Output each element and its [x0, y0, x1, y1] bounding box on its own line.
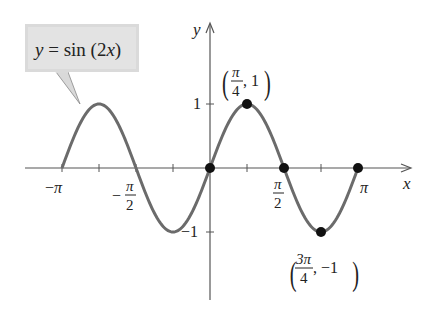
tick-label-neg-pi: −π	[45, 179, 63, 196]
point-trough	[316, 227, 326, 237]
sine-graph: x y −π − π 2 π 2 π 1 −1 ( π 4 , 1 ) ( 3π…	[0, 0, 428, 309]
svg-text:−: −	[112, 187, 121, 204]
svg-text:4: 4	[300, 270, 308, 286]
svg-text:(: (	[222, 64, 229, 102]
callout-pointer	[56, 72, 80, 104]
svg-text:, 1: , 1	[243, 72, 259, 89]
peak-label: ( π 4 , 1 )	[222, 64, 271, 102]
svg-text:, −1: , −1	[313, 259, 338, 276]
svg-text:3π: 3π	[295, 251, 312, 267]
point-pi	[353, 163, 363, 173]
svg-text:π: π	[232, 64, 240, 80]
tick-label-pi: π	[360, 179, 369, 196]
svg-text:4: 4	[232, 83, 240, 99]
tick-label-half-pi: π 2	[273, 176, 284, 211]
point-half-pi	[279, 163, 289, 173]
callout-text: y = sin (2x)	[33, 39, 121, 61]
point-peak	[242, 99, 252, 109]
function-callout: y = sin (2x)	[25, 24, 139, 104]
y-axis-label: y	[191, 20, 201, 39]
svg-text:2: 2	[126, 197, 134, 213]
tick-label-neg-half-pi: − π 2	[112, 178, 136, 213]
point-origin	[205, 163, 215, 173]
tick-label-y1: 1	[193, 95, 201, 112]
trough-label: ( 3π 4 , −1 )	[290, 251, 359, 292]
svg-text:): )	[264, 64, 271, 102]
svg-text:2: 2	[274, 195, 282, 211]
x-axis-label: x	[402, 174, 411, 193]
svg-text:π: π	[274, 176, 282, 192]
svg-text:π: π	[126, 178, 134, 194]
svg-text:): )	[352, 255, 359, 293]
tick-label-yneg1: −1	[181, 223, 198, 240]
